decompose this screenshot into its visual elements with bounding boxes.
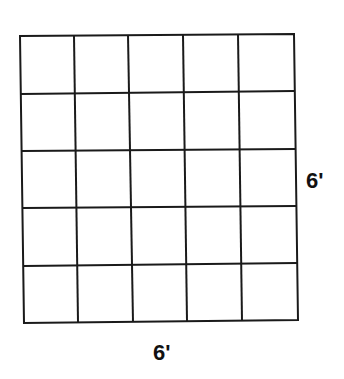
grid-vertical-line	[183, 35, 187, 321]
grid-horizontal-line	[22, 149, 295, 151]
grid-horizontal-line	[21, 91, 294, 94]
grid-horizontal-line	[24, 263, 297, 266]
width-dimension-label: 6'	[153, 342, 170, 364]
grid-lines	[20, 34, 298, 323]
grid-diagram	[0, 0, 344, 379]
grid-vertical-line	[238, 34, 242, 321]
height-dimension-label: 6'	[306, 170, 323, 192]
grid-vertical-line	[74, 36, 78, 322]
grid-vertical-line	[128, 35, 133, 322]
grid-horizontal-line	[23, 206, 296, 208]
grid-border	[20, 34, 298, 323]
